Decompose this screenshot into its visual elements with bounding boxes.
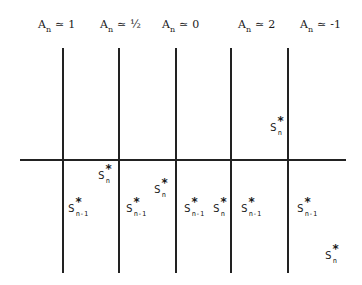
divider-line-5	[287, 48, 289, 273]
divider-line-3	[175, 48, 177, 273]
divider-line-1	[62, 48, 64, 273]
point-s-n-minus-1: S*n-1	[126, 203, 145, 214]
point-s-n-minus-1: S*n-1	[68, 203, 87, 214]
point-s-n-minus-1: S*n-1	[184, 203, 203, 214]
point-s-n-minus-1: S*n-1	[241, 203, 260, 214]
point-s-n: S*n	[154, 184, 165, 195]
point-s-n-minus-1: S*n-1	[297, 203, 316, 214]
column-label-an-2: An≃2	[238, 18, 275, 31]
point-s-n: S*n	[98, 170, 109, 181]
column-label-an-0: An≃0	[162, 18, 199, 31]
horizontal-axis-line	[20, 159, 346, 161]
point-s-n: S*n	[325, 250, 336, 261]
column-label-an-minus1: An≃-1	[300, 18, 341, 31]
point-s-n: S*n	[213, 203, 224, 214]
divider-line-4	[230, 48, 232, 273]
column-label-an-half: An≃½	[100, 18, 141, 31]
divider-line-2	[118, 48, 120, 273]
column-label-an-1: An≃1	[38, 18, 75, 31]
point-s-n: S*n	[270, 122, 281, 133]
